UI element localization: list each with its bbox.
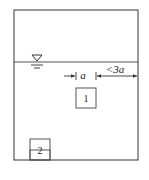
block-2-label: 2 [38, 145, 43, 156]
tank-outline [14, 10, 138, 160]
block-1-label: 1 [84, 93, 89, 104]
tank-diagram: a <3a 1 2 [0, 0, 149, 180]
dimension-gap-label: <3a [106, 63, 125, 75]
dimension-a-label: a [80, 69, 86, 81]
